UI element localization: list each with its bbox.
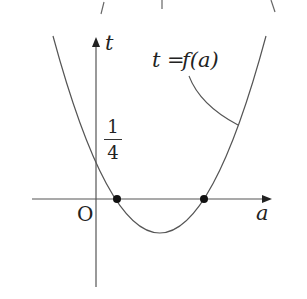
t-axis-arrow-icon <box>92 37 100 47</box>
t-axis-label: t <box>105 33 113 54</box>
curve-label-lhs: t <box>152 50 160 71</box>
y-intercept-fraction: 1 4 <box>104 118 122 162</box>
fragment-line-right <box>271 0 275 12</box>
a-axis-label: a <box>256 203 269 224</box>
fraction-numerator: 1 <box>104 118 122 136</box>
root-point-right <box>200 195 208 203</box>
curve-label-rhs: f(a) <box>182 50 219 71</box>
origin-label: O <box>77 204 93 224</box>
label-leader-line <box>189 76 238 125</box>
root-point-left <box>113 195 121 203</box>
fraction-denominator: 4 <box>104 144 122 162</box>
graph-canvas <box>0 0 307 299</box>
function-graph-figure: t t = f(a) 1 4 O a <box>0 0 307 299</box>
fragment-line-left <box>101 2 104 14</box>
fraction-bar <box>104 139 122 140</box>
